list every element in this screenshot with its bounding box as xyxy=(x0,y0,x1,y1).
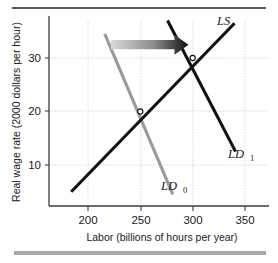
curve-label-ls: LS xyxy=(216,14,231,28)
curve-label-ld0-sub: 0 xyxy=(183,185,187,195)
xtick-label-200: 200 xyxy=(78,214,97,226)
economics-figure: 30 20 10 200 250 300 350 Labor (billions… xyxy=(0,0,278,263)
curve-label-ld1: LD 1 xyxy=(227,147,254,163)
curve-label-ls-text: LS xyxy=(216,14,231,28)
ytick-label-10: 10 xyxy=(28,159,41,171)
bottom-divider-bar xyxy=(14,251,266,255)
curve-label-ld1-sub: 1 xyxy=(250,153,254,163)
curve-label-ld0-text: LD xyxy=(160,179,177,193)
labor-market-chart: 30 20 10 200 250 300 350 Labor (billions… xyxy=(0,0,278,263)
xtick-label-250: 250 xyxy=(131,214,150,226)
x-axis-title: Labor (billions of hours per year) xyxy=(86,231,237,243)
xtick-label-300: 300 xyxy=(183,214,202,226)
equilibrium-marker-initial xyxy=(138,109,143,114)
xtick-label-350: 350 xyxy=(235,214,254,226)
curve-label-ld0: LD 0 xyxy=(160,179,187,195)
curve-label-ld1-text: LD xyxy=(227,147,244,161)
ytick-label-20: 20 xyxy=(28,105,41,117)
shift-arrow xyxy=(111,35,188,55)
y-axis-title: Real wage rate (2000 dollars per hour) xyxy=(10,22,22,202)
equilibrium-marker-new xyxy=(190,55,195,60)
ytick-label-30: 30 xyxy=(28,52,41,64)
x-axis-tickmarks xyxy=(88,206,245,211)
